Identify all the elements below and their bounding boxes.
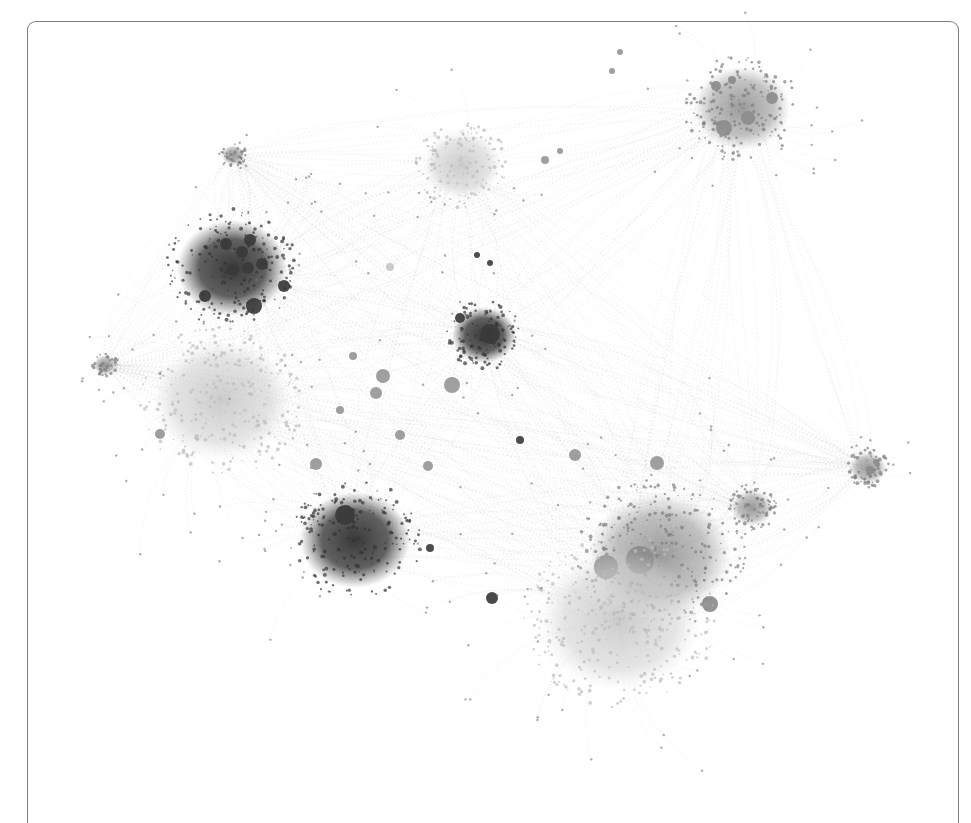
node <box>548 565 550 567</box>
node <box>257 365 258 366</box>
node <box>605 638 607 640</box>
node <box>640 587 642 589</box>
node <box>248 358 250 360</box>
node <box>711 119 714 122</box>
node <box>721 158 723 160</box>
edge <box>728 127 871 474</box>
node <box>544 348 546 350</box>
node <box>233 151 237 155</box>
node <box>742 93 746 97</box>
node <box>667 692 668 693</box>
node <box>212 416 214 418</box>
node <box>498 304 500 306</box>
node <box>288 247 291 250</box>
node <box>205 391 208 394</box>
node <box>459 355 462 358</box>
node <box>188 350 190 352</box>
node <box>686 79 688 81</box>
node <box>403 543 405 545</box>
node <box>515 336 516 337</box>
node <box>229 320 231 322</box>
node <box>694 584 697 587</box>
node <box>472 323 474 325</box>
node <box>221 351 224 354</box>
node <box>659 524 662 527</box>
edge <box>110 321 496 366</box>
node <box>555 663 559 667</box>
node <box>767 511 768 512</box>
node <box>298 542 302 546</box>
node <box>459 301 461 303</box>
node <box>176 400 179 403</box>
node <box>467 197 469 199</box>
node <box>497 342 501 346</box>
node <box>434 186 437 189</box>
node <box>765 119 767 121</box>
node <box>474 127 476 129</box>
node <box>449 170 451 172</box>
node <box>99 354 101 356</box>
node <box>736 150 739 153</box>
node <box>175 320 177 322</box>
node <box>269 269 271 271</box>
node <box>533 624 536 627</box>
hub-node <box>335 505 355 525</box>
node <box>768 114 770 116</box>
node <box>623 527 625 529</box>
node <box>591 609 595 613</box>
node <box>231 250 233 252</box>
node <box>281 523 283 525</box>
node <box>547 694 549 696</box>
node <box>762 511 764 513</box>
node <box>261 251 264 254</box>
node <box>211 256 213 258</box>
node <box>701 769 703 771</box>
node <box>301 521 303 523</box>
node <box>182 440 184 442</box>
node <box>166 256 169 259</box>
node <box>407 529 409 531</box>
node <box>184 359 187 362</box>
node <box>218 153 220 155</box>
hub-node <box>236 246 248 258</box>
node <box>162 415 164 417</box>
node <box>633 689 636 692</box>
node <box>446 175 449 178</box>
node <box>222 462 226 466</box>
node <box>736 494 740 498</box>
node <box>477 412 479 414</box>
node <box>439 171 441 173</box>
node <box>489 137 492 140</box>
node <box>202 308 205 311</box>
node <box>176 260 180 264</box>
node <box>614 524 615 525</box>
node <box>415 161 418 164</box>
node <box>469 698 471 700</box>
node <box>809 49 811 51</box>
node <box>267 220 270 223</box>
node <box>313 509 317 513</box>
node <box>182 374 185 377</box>
node <box>761 123 765 127</box>
node <box>630 625 634 629</box>
node <box>647 563 651 567</box>
node <box>468 149 472 153</box>
node <box>465 166 469 170</box>
node <box>318 508 321 511</box>
node <box>590 758 592 760</box>
node <box>578 692 582 696</box>
node <box>538 610 541 613</box>
node <box>482 186 485 189</box>
node <box>174 242 177 245</box>
node <box>591 631 595 635</box>
node <box>463 202 465 204</box>
node <box>369 463 371 465</box>
node <box>639 685 641 687</box>
node <box>459 533 461 535</box>
node <box>626 523 629 526</box>
node <box>180 419 184 423</box>
node <box>668 513 672 517</box>
node <box>212 354 214 356</box>
node <box>441 271 443 273</box>
node <box>270 372 272 374</box>
